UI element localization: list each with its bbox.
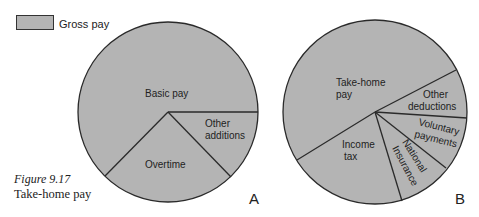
label-take-home-1: Take-home <box>336 77 386 88</box>
panel-letter-b: B <box>455 190 465 207</box>
label-other-deductions-2: deductions <box>408 101 456 112</box>
pie-charts: Basic pay Other additions Overtime Take-… <box>0 0 479 217</box>
panel-letter-a: A <box>249 190 259 207</box>
label-other-deductions-1: Other <box>423 89 449 100</box>
pie-a: Basic pay Other additions Overtime <box>78 22 258 202</box>
label-other-additions-2: additions <box>205 130 245 141</box>
label-basic-pay: Basic pay <box>145 88 188 99</box>
label-other-additions-1: Other <box>205 118 231 129</box>
label-income-tax-2: tax <box>344 151 357 162</box>
label-overtime: Overtime <box>145 159 186 170</box>
label-take-home-2: pay <box>336 89 352 100</box>
pie-b: Take-home pay Other deductions Voluntary… <box>283 20 467 204</box>
label-income-tax-1: Income <box>342 139 375 150</box>
figure-number: Figure 9.17 <box>14 172 70 187</box>
figure: Gross pay Basic pay Other additions Over… <box>0 0 479 217</box>
figure-title: Take-home pay <box>14 187 91 202</box>
